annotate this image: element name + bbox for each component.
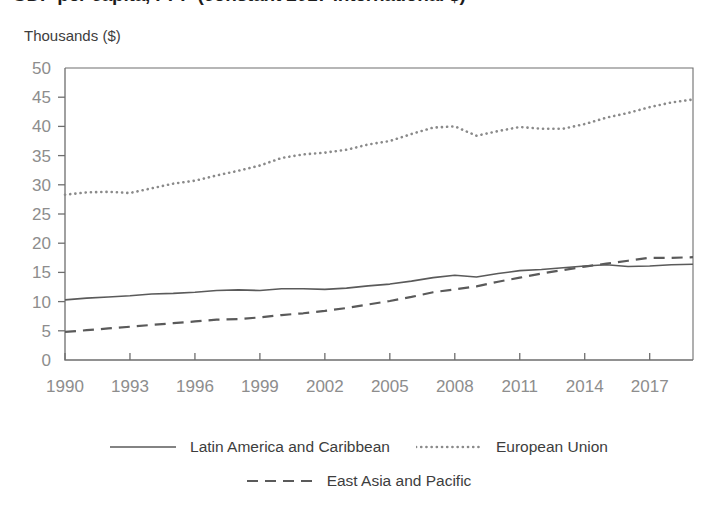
- svg-text:2005: 2005: [371, 377, 409, 396]
- svg-text:1993: 1993: [111, 377, 149, 396]
- svg-text:2002: 2002: [306, 377, 344, 396]
- legend-swatch-solid-icon: [110, 440, 176, 454]
- chart-container: GDP per capita, PPP (constant 2017 inter…: [0, 0, 718, 511]
- svg-text:2014: 2014: [566, 377, 604, 396]
- legend-swatch-dotted-icon: [416, 440, 482, 454]
- svg-text:2011: 2011: [501, 377, 538, 396]
- legend-label: European Union: [496, 438, 608, 456]
- legend-label: East Asia and Pacific: [327, 472, 472, 490]
- svg-text:1996: 1996: [176, 377, 214, 396]
- svg-text:15: 15: [32, 263, 51, 282]
- legend-row: East Asia and Pacific: [0, 464, 718, 498]
- svg-text:40: 40: [32, 117, 51, 136]
- svg-text:5: 5: [42, 322, 51, 341]
- series-line-1: [65, 100, 693, 195]
- legend-row: Latin America and CaribbeanEuropean Unio…: [0, 430, 718, 464]
- legend-swatch-dashed-icon: [247, 474, 313, 488]
- svg-text:1990: 1990: [46, 377, 84, 396]
- x-axis-tick-labels: 1990199319961999200220052008201120142017: [46, 377, 669, 396]
- axis-lines: [65, 68, 693, 360]
- svg-text:10: 10: [32, 293, 51, 312]
- svg-text:1999: 1999: [241, 377, 279, 396]
- svg-text:20: 20: [32, 234, 51, 253]
- legend-entry[interactable]: European Union: [416, 438, 608, 456]
- series-line-0: [65, 264, 693, 300]
- svg-text:2017: 2017: [631, 377, 669, 396]
- svg-text:50: 50: [32, 59, 51, 78]
- svg-text:2008: 2008: [436, 377, 474, 396]
- svg-text:0: 0: [42, 351, 51, 370]
- series-lines: [65, 100, 693, 332]
- chart-legend: Latin America and CaribbeanEuropean Unio…: [0, 430, 718, 498]
- svg-text:25: 25: [32, 205, 51, 224]
- legend-entry[interactable]: Latin America and Caribbean: [110, 438, 390, 456]
- axis-tick-marks: [58, 97, 650, 360]
- svg-text:30: 30: [32, 176, 51, 195]
- line-chart-plot: 05101520253035404550 1990199319961999200…: [0, 0, 718, 430]
- y-axis-tick-labels: 05101520253035404550: [32, 59, 51, 370]
- legend-entry[interactable]: East Asia and Pacific: [247, 472, 472, 490]
- svg-text:45: 45: [32, 88, 51, 107]
- svg-text:35: 35: [32, 147, 51, 166]
- legend-label: Latin America and Caribbean: [190, 438, 390, 456]
